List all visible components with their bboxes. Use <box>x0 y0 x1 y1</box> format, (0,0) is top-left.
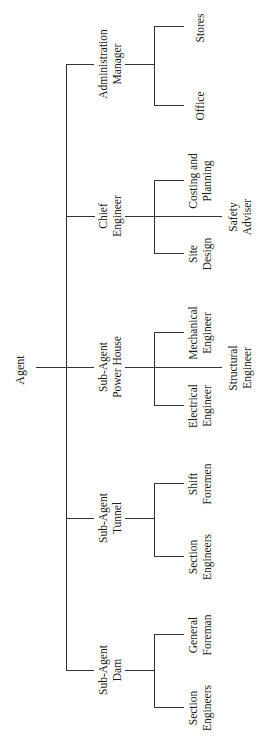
label-line: Sub-Agent <box>96 645 110 695</box>
spine-chief <box>154 180 155 254</box>
node-subagent-dam: Sub-Agent Dam <box>96 645 124 695</box>
label-line: Dam <box>110 645 124 695</box>
leaf-shift-foremen: Shift Foremen <box>186 464 214 505</box>
leaf-site-design: Site Design <box>186 238 214 271</box>
leaf-mechanical-engineer: Mechanical Engineer <box>186 306 214 360</box>
link-chief <box>125 216 222 217</box>
leaf-stub <box>154 707 184 708</box>
label-line: Power House <box>110 336 124 398</box>
label-line: Engineer <box>110 195 124 237</box>
node-admin-manager: Administration Manager <box>96 29 124 99</box>
leaf-dam-section-engineers: Section Engineers <box>186 685 214 731</box>
spine-powerhouse <box>154 332 155 406</box>
label-line: Shift <box>186 464 200 505</box>
leaf-stub <box>154 180 184 181</box>
stub-dam <box>66 670 94 671</box>
label-line: Administration <box>96 29 110 99</box>
link-powerhouse <box>125 367 222 368</box>
spine-admin <box>154 26 155 106</box>
label-line: Section <box>186 685 200 731</box>
spine-tunnel <box>154 483 155 557</box>
leaf-stub <box>154 26 184 27</box>
label-line: Sub-Agent <box>96 493 110 543</box>
label-line: Manager <box>110 29 124 99</box>
label-line: Tunnel <box>110 493 124 543</box>
leaf-costing-planning: Costing and Planning <box>186 153 214 208</box>
node-agent-label: Agent <box>13 355 27 384</box>
leaf-structural-engineer: Structural Engineer <box>226 345 254 390</box>
node-chief-engineer: Chief Engineer <box>96 195 124 237</box>
label-line: Engineer <box>200 306 214 360</box>
link-tunnel <box>125 518 155 519</box>
leaf-stub <box>154 483 184 484</box>
label-line: Engineers <box>200 534 214 580</box>
leaf-office: Office <box>193 91 207 120</box>
connector-agent <box>36 367 67 368</box>
label-line: Electrical <box>186 384 200 428</box>
leaf-general-foreman: General Foreman <box>186 615 214 656</box>
leaf-stub <box>154 332 184 333</box>
link-dam <box>125 670 155 671</box>
label-line: Sub-Agent <box>96 336 110 398</box>
label-line: Design <box>200 238 214 271</box>
label-line: Foremen <box>200 464 214 505</box>
stub-chief-h <box>66 216 94 217</box>
stub-admin <box>66 64 94 65</box>
node-subagent-tunnel: Sub-Agent Tunnel <box>96 493 124 543</box>
label-line: General <box>186 615 200 656</box>
node-subagent-powerhouse: Sub-Agent Power House <box>96 336 124 398</box>
label-line: Engineer <box>240 345 254 390</box>
label-line: Engineer <box>200 384 214 428</box>
leaf-stub <box>154 556 184 557</box>
label-line: Chief <box>96 195 110 237</box>
stub-powerhouse <box>66 367 94 368</box>
leaf-stub <box>154 634 184 635</box>
node-agent: Agent <box>13 355 27 384</box>
label-line: Office <box>193 91 207 120</box>
label-line: Costing and <box>186 153 200 208</box>
leaf-stub <box>154 253 184 254</box>
label-line: Stores <box>193 14 207 43</box>
leaf-electrical-engineer: Electrical Engineer <box>186 384 214 428</box>
label-line: Engineers <box>200 685 214 731</box>
leaf-stub <box>154 405 184 406</box>
link-admin <box>125 64 155 65</box>
label-line: Foreman <box>200 615 214 656</box>
spine-dam <box>154 634 155 708</box>
label-line: Planning <box>200 153 214 208</box>
label-line: Mechanical <box>186 306 200 360</box>
leaf-stores: Stores <box>193 14 207 43</box>
label-line: Site <box>186 238 200 271</box>
label-line: Safety <box>226 199 240 235</box>
label-line: Adviser <box>240 199 254 235</box>
leaf-stub <box>154 105 184 106</box>
label-line: Section <box>186 534 200 580</box>
stub-tunnel <box>66 518 94 519</box>
leaf-safety-adviser: Safety Adviser <box>226 199 254 235</box>
label-line: Structural <box>226 345 240 390</box>
leaf-tunnel-section-engineers: Section Engineers <box>186 534 214 580</box>
